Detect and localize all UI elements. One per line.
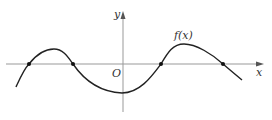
y-axis-arrow-icon [121, 11, 126, 19]
function-curve [16, 44, 242, 93]
zero-point [159, 62, 163, 66]
function-graph [0, 0, 272, 120]
zero-point [221, 62, 225, 66]
zero-point [71, 62, 75, 66]
x-axis-label: x [256, 67, 262, 78]
y-axis-label: y [114, 9, 120, 20]
function-label: f(x) [174, 30, 193, 41]
zero-point [27, 62, 31, 66]
origin-label: O [112, 68, 121, 79]
